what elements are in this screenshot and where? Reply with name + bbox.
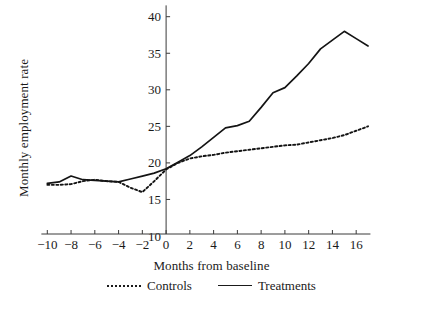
legend-entry-controls: Controls: [107, 279, 192, 292]
y-tick-label: 35: [148, 46, 161, 61]
y-axis-ticks: 10152025303540: [148, 9, 170, 243]
x-tick-label: 16: [350, 237, 364, 252]
x-axis-ticks: −10−8−6−4−20246810121416: [37, 230, 363, 252]
x-tick-label: 6: [234, 237, 241, 252]
legend-swatch-dotted-icon: [107, 285, 141, 287]
chart-legend: Controls Treatments: [0, 279, 423, 292]
y-tick-label: 40: [148, 9, 161, 24]
y-tick-label: 25: [148, 119, 161, 134]
x-tick-label: 4: [210, 237, 217, 252]
legend-entry-treatments: Treatments: [218, 279, 316, 292]
x-tick-label: 2: [187, 237, 194, 252]
x-tick-label: 12: [302, 237, 315, 252]
y-tick-label: 30: [148, 82, 161, 97]
x-tick-label: −4: [112, 237, 126, 252]
x-axis-title: Months from baseline: [0, 258, 423, 274]
x-tick-label: −10: [37, 237, 57, 252]
y-tick-label: 10: [148, 229, 161, 244]
series-line-controls: [47, 126, 368, 192]
x-tick-label: 14: [326, 237, 340, 252]
legend-label-controls: Controls: [147, 279, 192, 292]
x-tick-label: −8: [64, 237, 78, 252]
legend-label-treatments: Treatments: [258, 279, 316, 292]
x-tick-label: −2: [135, 237, 149, 252]
x-tick-label: 8: [258, 237, 265, 252]
x-tick-label: 10: [278, 237, 291, 252]
y-axis-title: Monthly employment rate: [16, 28, 32, 228]
series-line-treatments: [47, 31, 368, 183]
chart-figure: Monthly employment rate 10152025303540 −…: [0, 0, 423, 309]
y-tick-label: 15: [148, 192, 161, 207]
x-tick-label: 0: [163, 237, 170, 252]
legend-swatch-solid-icon: [218, 285, 252, 286]
x-tick-label: −6: [88, 237, 102, 252]
y-tick-label: 20: [148, 155, 161, 170]
